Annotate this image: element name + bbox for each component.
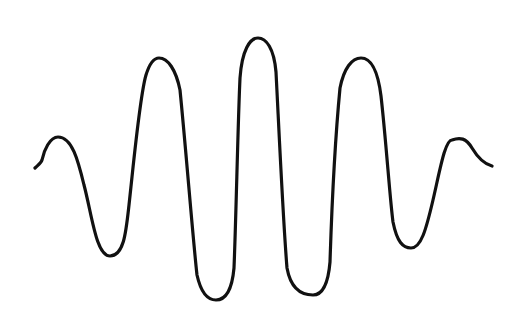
waveform-curve [35,38,492,300]
wave-packet-figure [0,0,522,321]
wave-packet-svg [0,0,522,321]
